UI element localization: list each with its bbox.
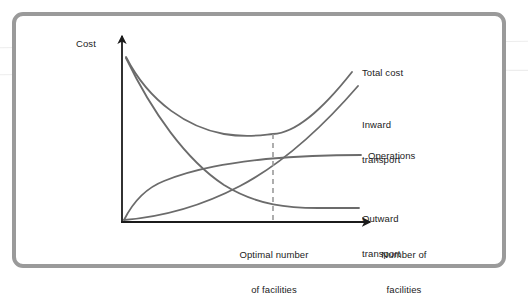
x-axis-label-line2: facilities	[356, 284, 452, 296]
optimal-facilities-annotation: Optimal number of facilities	[211, 226, 337, 297]
series-label-outward-transport-line1: Outward	[362, 213, 400, 225]
optimal-facilities-annotation-line1: Optimal number	[211, 249, 337, 261]
series-label-total-cost: Total cost	[362, 67, 403, 79]
chart-axes	[121, 36, 370, 222]
x-axis-label: Number of facilities	[356, 226, 452, 297]
series-label-operations: Operations	[368, 150, 415, 162]
series-total-cost-curve	[126, 57, 352, 136]
y-axis-label: Cost	[76, 38, 96, 50]
series-label-inward-transport-line1: Inward	[362, 119, 400, 131]
x-axis-label-line1: Number of	[356, 249, 452, 261]
optimal-facilities-annotation-line2: of facilities	[211, 284, 337, 296]
series-label-inward-transport: Inward transport	[362, 96, 400, 188]
series-operations-curve	[124, 155, 361, 220]
